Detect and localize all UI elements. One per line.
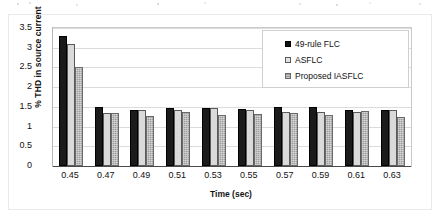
legend-item[interactable]: 49-rule FLC bbox=[285, 36, 408, 52]
x-tick-label: 0.47 bbox=[88, 170, 124, 180]
y-axis-title: % THD in source current bbox=[33, 0, 43, 137]
x-tick-label: 0.53 bbox=[195, 170, 231, 180]
bar[interactable] bbox=[59, 36, 67, 166]
bar[interactable] bbox=[210, 108, 218, 166]
x-axis-tick-labels: 0.450.470.490.510.530.550.570.590.610.63 bbox=[52, 170, 410, 180]
bar-group bbox=[160, 28, 196, 166]
bar[interactable] bbox=[353, 112, 361, 166]
x-tick-label: 0.55 bbox=[231, 170, 267, 180]
x-tick-label: 0.59 bbox=[303, 170, 339, 180]
legend-item[interactable]: ASFLC bbox=[285, 52, 408, 68]
bar[interactable] bbox=[95, 107, 103, 166]
bar-group bbox=[53, 28, 89, 166]
bar[interactable] bbox=[138, 110, 146, 166]
y-tick-label: 3.5 bbox=[0, 22, 32, 32]
legend-label: Proposed IASFLC bbox=[295, 71, 364, 81]
x-axis-line bbox=[53, 166, 411, 167]
bar[interactable] bbox=[274, 107, 282, 166]
bar[interactable] bbox=[103, 113, 111, 166]
x-tick-label: 0.61 bbox=[338, 170, 374, 180]
bar[interactable] bbox=[75, 67, 83, 166]
bar[interactable] bbox=[174, 110, 182, 166]
bar[interactable] bbox=[397, 117, 405, 166]
bar[interactable] bbox=[246, 110, 254, 166]
legend-item[interactable]: Proposed IASFLC bbox=[285, 68, 408, 84]
bar[interactable] bbox=[290, 113, 298, 166]
legend-swatch-icon bbox=[285, 57, 291, 63]
legend-swatch-icon bbox=[285, 73, 291, 79]
chart-legend: 49-rule FLCASFLCProposed IASFLC bbox=[262, 30, 409, 88]
bar[interactable] bbox=[166, 108, 174, 166]
legend-label: ASFLC bbox=[295, 55, 322, 65]
bar-group bbox=[89, 28, 125, 166]
bar[interactable] bbox=[130, 110, 138, 166]
legend-label: 49-rule FLC bbox=[295, 39, 340, 49]
bar[interactable] bbox=[111, 113, 119, 166]
legend-swatch-icon bbox=[285, 41, 291, 47]
bar[interactable] bbox=[218, 115, 226, 166]
bar-group bbox=[125, 28, 161, 166]
bar[interactable] bbox=[202, 108, 210, 166]
y-tick-label: 0 bbox=[0, 160, 32, 170]
x-tick-label: 0.51 bbox=[159, 170, 195, 180]
bar[interactable] bbox=[146, 116, 154, 166]
bar[interactable] bbox=[182, 112, 190, 166]
bar[interactable] bbox=[67, 44, 75, 166]
x-tick-label: 0.63 bbox=[374, 170, 410, 180]
x-tick-label: 0.45 bbox=[52, 170, 88, 180]
bar[interactable] bbox=[389, 110, 397, 166]
y-tick-label: 1.5 bbox=[0, 101, 32, 111]
y-tick-label: 0.5 bbox=[0, 140, 32, 150]
y-tick-label: 2 bbox=[0, 81, 32, 91]
y-tick-label: 2.5 bbox=[0, 61, 32, 71]
bar[interactable] bbox=[282, 112, 290, 166]
x-axis-title: Time (sec) bbox=[52, 189, 410, 199]
bar[interactable] bbox=[345, 110, 353, 166]
bar[interactable] bbox=[317, 112, 325, 166]
bar[interactable] bbox=[361, 111, 369, 166]
y-tick-label: 1 bbox=[0, 121, 32, 131]
bar[interactable] bbox=[325, 115, 333, 166]
bar-group bbox=[196, 28, 232, 166]
bar[interactable] bbox=[238, 109, 246, 166]
x-tick-label: 0.49 bbox=[124, 170, 160, 180]
thd-bar-chart: % THD in source current 00.511.522.533.5… bbox=[0, 0, 446, 218]
bar[interactable] bbox=[309, 107, 317, 166]
bar[interactable] bbox=[381, 110, 389, 166]
y-tick-label: 3 bbox=[0, 42, 32, 52]
bar[interactable] bbox=[254, 114, 262, 166]
x-tick-label: 0.57 bbox=[267, 170, 303, 180]
